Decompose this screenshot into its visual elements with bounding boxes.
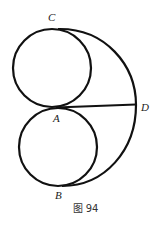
point-label-a: A: [53, 113, 60, 124]
point-label-b: B: [55, 190, 62, 201]
figure-canvas: [0, 0, 159, 231]
figure-caption: 图 94: [0, 204, 159, 214]
point-label-c: C: [48, 12, 55, 23]
upper-circle: [13, 29, 91, 107]
point-label-d: D: [141, 102, 149, 113]
segment-ad: [56, 105, 136, 108]
geometry-figure: C A D B 图 94: [0, 0, 159, 231]
